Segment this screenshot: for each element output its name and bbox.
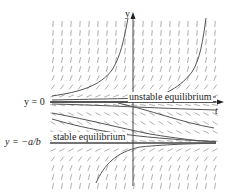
slope-mark: [71, 48, 72, 53]
slope-mark: [98, 183, 99, 188]
slope-mark: [125, 48, 126, 53]
slope-mark: [141, 85, 144, 89]
slope-mark: [60, 157, 63, 161]
slope-mark: [178, 174, 179, 179]
slope-mark: [159, 85, 162, 89]
slope-mark: [158, 105, 163, 106]
slope-mark: [89, 57, 90, 62]
slope-mark: [170, 39, 171, 44]
slope-mark: [61, 174, 62, 179]
slope-mark: [140, 141, 145, 142]
slope-mark: [169, 174, 170, 179]
slope-mark: [206, 183, 207, 188]
slope-mark: [87, 95, 92, 97]
slope-mark: [160, 66, 161, 71]
slope-mark: [197, 39, 198, 44]
slope-mark: [151, 66, 152, 71]
slope-mark: [150, 85, 153, 89]
slope-mark: [177, 113, 182, 115]
slope-mark: [78, 122, 82, 125]
slope-mark: [150, 122, 154, 125]
slope-mark: [80, 183, 81, 188]
slope-mark: [70, 76, 72, 81]
slope-mark: [188, 183, 189, 188]
slope-mark: [52, 76, 54, 81]
slope-mark: [167, 141, 172, 142]
slope-mark: [88, 166, 90, 171]
slope-mark: [98, 48, 99, 53]
slope-mark: [168, 149, 173, 151]
slope-mark: [205, 76, 207, 81]
slope-mark: [161, 183, 162, 188]
slope-mark: [123, 95, 128, 97]
slope-mark: [151, 166, 153, 171]
slope-mark: [188, 57, 189, 62]
slope-mark: [150, 113, 155, 115]
stable-equilibrium-annotation: stable equilibrium: [52, 132, 127, 142]
slope-mark: [168, 122, 172, 125]
slope-mark: [196, 76, 198, 81]
slope-mark: [167, 105, 172, 106]
slope-mark: [169, 76, 171, 81]
curve-upper-left: [52, 18, 128, 96]
slope-mark: [214, 66, 215, 71]
slope-mark: [140, 105, 145, 106]
slope-mark: [204, 113, 209, 115]
slope-mark: [123, 122, 127, 125]
slope-mark: [179, 39, 180, 44]
slope-mark: [96, 113, 101, 115]
slope-mark: [88, 174, 89, 179]
slope-mark: [170, 57, 171, 62]
slope-mark: [88, 66, 89, 71]
slope-mark: [98, 57, 99, 62]
y-neg-a-over-b-label: y = −a/b: [5, 137, 41, 147]
slope-mark: [206, 48, 207, 53]
slope-mark: [151, 174, 152, 179]
slope-mark: [132, 122, 136, 125]
slope-mark: [213, 122, 217, 125]
slope-mark: [88, 76, 90, 81]
slope-mark: [69, 85, 72, 89]
slope-mark: [150, 157, 153, 161]
slope-mark: [194, 105, 199, 106]
slope-mark: [170, 48, 171, 53]
slope-mark: [87, 113, 92, 115]
slope-mark: [161, 39, 162, 44]
slope-mark: [131, 141, 136, 142]
slope-mark: [142, 174, 143, 179]
slope-mark: [113, 105, 118, 106]
slope-mark: [205, 174, 206, 179]
slope-mark: [178, 76, 180, 81]
slope-mark: [158, 141, 163, 142]
slope-mark: [150, 149, 155, 151]
slope-mark: [62, 183, 63, 188]
slope-mark: [71, 183, 72, 188]
slope-mark: [105, 149, 110, 151]
slope-mark: [53, 48, 54, 53]
slope-mark: [159, 122, 163, 125]
slope-mark: [195, 131, 200, 133]
slope-mark: [52, 174, 53, 179]
slope-mark: [179, 183, 180, 188]
slope-mark: [215, 48, 216, 53]
slope-mark: [60, 95, 65, 97]
slope-mark: [203, 105, 208, 106]
slope-mark: [78, 85, 81, 89]
slope-mark: [177, 157, 180, 161]
y-axis-label: y: [125, 9, 130, 19]
slope-mark: [78, 113, 83, 115]
slope-mark: [188, 48, 189, 53]
slope-mark: [159, 157, 162, 161]
slope-mark: [150, 131, 155, 133]
slope-mark: [51, 157, 54, 161]
slope-mark: [97, 66, 98, 71]
slope-mark: [149, 141, 154, 142]
slope-mark: [52, 66, 53, 71]
slope-mark: [186, 113, 191, 115]
slope-mark: [186, 157, 189, 161]
slope-mark: [79, 76, 81, 81]
slope-mark: [213, 157, 216, 161]
slope-mark: [98, 39, 99, 44]
slope-mark: [115, 166, 117, 171]
slope-mark: [51, 122, 55, 125]
